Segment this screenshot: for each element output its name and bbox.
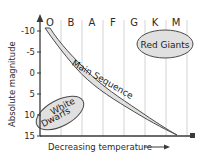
- class-label-B: B: [68, 17, 75, 28]
- y-tick-label-5: 5: [30, 89, 35, 99]
- red-giants-label: Red Giants: [141, 40, 190, 50]
- y-tick-label-10: 10: [24, 110, 35, 120]
- x-axis-title-arrow-head: [164, 144, 170, 149]
- y-tick-label-minus10: -10: [21, 26, 35, 36]
- hr-diagram-figure: Main Sequence Red Giants White Dwarfs: [0, 0, 199, 155]
- x-axis-endpoint: [190, 133, 195, 138]
- y-axis-arrow: [37, 14, 44, 22]
- class-label-G: G: [130, 17, 138, 28]
- class-label-A: A: [89, 17, 96, 28]
- y-tick-label-15: 15: [24, 131, 35, 141]
- y-axis-title: Absolute magnitude: [7, 41, 17, 127]
- y-tick-label-0: 0: [30, 68, 35, 78]
- x-axis-title: Decreasing temperature: [48, 142, 152, 152]
- spectral-class-labels: O B A F G K M: [46, 17, 180, 28]
- y-tick-label-minus5: -5: [27, 47, 35, 57]
- class-label-O: O: [46, 17, 54, 28]
- class-label-M: M: [172, 17, 181, 28]
- region-red-giants: Red Giants: [137, 30, 193, 58]
- y-tick-labels: -10 -5 0 5 10 15: [21, 26, 35, 141]
- class-label-K: K: [152, 17, 159, 28]
- x-axis-title-group: Decreasing temperature: [48, 142, 170, 152]
- class-label-F: F: [110, 17, 116, 28]
